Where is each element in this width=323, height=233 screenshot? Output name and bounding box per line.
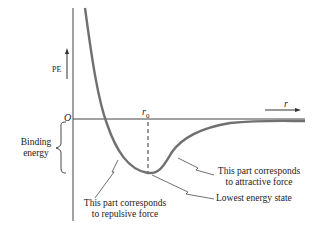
lowest-leader: [152, 175, 214, 199]
pe-arrowhead-icon: [65, 48, 69, 54]
binding-energy-label: Binding energy: [16, 137, 56, 159]
repulsive-leader: [95, 160, 118, 198]
r-axis-label: r: [284, 98, 288, 109]
r0-label: r0: [142, 106, 149, 122]
pe-label: PE: [52, 64, 61, 75]
potential-energy-curve: [85, 8, 305, 173]
origin-label: O: [64, 112, 71, 123]
binding-energy-brace: [56, 122, 66, 173]
repulsive-annotation: This part corresponds to repulsive force: [80, 198, 170, 220]
r-arrowhead-icon: [295, 108, 301, 112]
lowest-energy-annotation: Lowest energy state: [216, 193, 292, 204]
attractive-annotation: This part corresponds to attractive forc…: [214, 166, 304, 188]
attractive-leader: [178, 158, 214, 175]
